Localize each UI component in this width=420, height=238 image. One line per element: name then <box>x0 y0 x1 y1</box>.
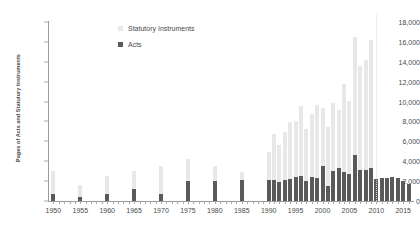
x-axis-tick-mark <box>226 201 227 204</box>
x-axis-tick-mark <box>118 201 119 204</box>
x-axis-tick-mark <box>236 201 237 204</box>
x-axis-tick-label: 1970 <box>153 207 169 214</box>
bar-column <box>369 40 373 201</box>
x-axis-tick-mark <box>183 201 184 204</box>
x-axis-tick-label: 1995 <box>288 207 304 214</box>
x-axis-tick-mark <box>166 201 167 204</box>
x-axis-tick-label: 1990 <box>261 207 277 214</box>
bar-segment-acts <box>347 174 351 201</box>
bar-column <box>315 105 319 201</box>
bar-segment-acts <box>401 181 405 201</box>
bar-segment-acts <box>299 176 303 201</box>
bar-segment-acts <box>310 177 314 201</box>
bar-column <box>401 181 405 201</box>
bar-segment-acts <box>315 178 319 201</box>
x-axis-tick-mark <box>263 201 264 204</box>
bar-column <box>267 152 271 201</box>
bar-column <box>390 177 394 201</box>
bar-column <box>277 145 281 201</box>
x-axis-tick-mark <box>96 201 97 204</box>
x-axis-tick-mark <box>215 201 216 204</box>
bar-segment-acts <box>105 194 109 201</box>
x-axis-tick-mark <box>220 201 221 204</box>
legend-label-acts: Acts <box>128 41 142 48</box>
bar-segment-acts <box>213 181 217 201</box>
x-axis-tick-mark <box>333 201 334 204</box>
x-axis-tick-mark <box>188 201 189 204</box>
annotation-vertical-line <box>376 14 377 201</box>
legend-item-acts: Acts <box>118 41 195 48</box>
bar-column <box>385 178 389 201</box>
x-axis-tick-label: 2005 <box>342 207 358 214</box>
x-axis-tick-mark <box>209 201 210 204</box>
bar-segment-acts <box>380 178 384 201</box>
bar-column <box>304 129 308 201</box>
bar-segment-acts <box>159 194 163 201</box>
bar-column <box>78 185 82 201</box>
bar-segment-acts <box>337 168 341 201</box>
bar-segment-acts <box>304 181 308 201</box>
x-axis-tick-mark <box>382 201 383 204</box>
bar-column <box>353 37 357 201</box>
bar-segment-acts <box>294 177 298 201</box>
bar-column <box>364 60 368 201</box>
bar-segment-acts <box>396 178 400 201</box>
x-axis-tick-mark <box>86 201 87 204</box>
x-axis-tick-mark <box>91 201 92 204</box>
x-axis-tick-mark <box>285 201 286 204</box>
bar-segment-acts <box>364 170 368 201</box>
x-axis-tick-label: 1965 <box>126 207 142 214</box>
x-axis-tick-mark <box>360 201 361 204</box>
x-axis-tick-mark <box>403 201 404 204</box>
bar-segment-acts <box>240 180 244 201</box>
x-axis-tick-mark <box>199 201 200 204</box>
bar-column <box>331 103 335 201</box>
x-axis-tick-mark <box>193 201 194 204</box>
bar-segment-acts <box>358 170 362 201</box>
x-axis-tick-mark <box>392 201 393 204</box>
x-axis-tick-mark <box>247 201 248 204</box>
bar-segment-acts <box>78 197 82 201</box>
x-axis-tick-mark <box>129 201 130 204</box>
bar-column <box>299 106 303 201</box>
x-axis-tick-mark <box>204 201 205 204</box>
bar-column <box>407 184 411 201</box>
bar-column <box>288 122 292 201</box>
y-axis-title: Pages of Acts and Statutory Instruments <box>15 28 21 188</box>
x-axis-tick-mark <box>349 201 350 204</box>
x-axis-tick-mark <box>366 201 367 204</box>
legend-label-statutory-instruments: Statutory Instruments <box>128 25 195 32</box>
x-axis-tick-mark <box>339 201 340 204</box>
x-axis-tick-mark <box>258 201 259 204</box>
bar-column <box>132 171 136 201</box>
bar-segment-acts <box>369 168 373 201</box>
x-axis-tick-mark <box>59 201 60 204</box>
bar-column <box>186 159 190 201</box>
bar-column <box>321 108 325 201</box>
x-axis-tick-mark <box>274 201 275 204</box>
bar-segment-acts <box>326 186 330 201</box>
x-axis-tick-mark <box>376 201 377 204</box>
bar-segment-acts <box>321 166 325 201</box>
x-axis-tick-mark <box>344 201 345 204</box>
x-axis-tick-label: 1975 <box>180 207 196 214</box>
x-axis-tick-label: 1950 <box>46 207 62 214</box>
bar-column <box>213 166 217 201</box>
bar-column <box>337 110 341 201</box>
x-axis-tick-label: 1980 <box>207 207 223 214</box>
bar-column <box>51 171 55 201</box>
x-axis-tick-mark <box>306 201 307 204</box>
x-axis-tick-mark <box>64 201 65 204</box>
x-axis-tick-mark <box>355 201 356 204</box>
x-axis-tick-mark <box>70 201 71 204</box>
x-axis-tick-label: 2010 <box>369 207 385 214</box>
x-axis-tick-mark <box>371 201 372 204</box>
bar-column <box>380 178 384 201</box>
x-axis-tick-mark <box>279 201 280 204</box>
x-axis-tick-mark <box>123 201 124 204</box>
x-axis-tick-mark <box>328 201 329 204</box>
bar-segment-acts <box>288 179 292 201</box>
x-axis-tick-mark <box>107 201 108 204</box>
x-axis-tick-mark <box>177 201 178 204</box>
bar-column <box>310 114 314 201</box>
